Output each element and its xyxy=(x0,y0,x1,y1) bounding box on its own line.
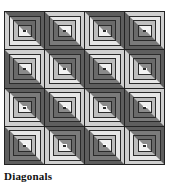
quilt-block xyxy=(125,89,164,126)
quilt-block xyxy=(45,89,84,126)
quilt-block xyxy=(125,12,164,49)
quilt-block xyxy=(85,127,124,164)
quilt-block xyxy=(45,127,84,164)
center-square xyxy=(23,107,26,109)
center-square xyxy=(23,68,26,70)
center-square xyxy=(23,30,26,32)
center-square xyxy=(63,145,66,147)
quilt-block xyxy=(5,127,44,164)
center-square xyxy=(23,145,26,147)
log-cabin-quilt xyxy=(4,11,165,165)
center-square xyxy=(63,30,66,32)
center-square xyxy=(143,107,146,109)
center-square xyxy=(143,30,146,32)
quilt-block xyxy=(45,12,84,49)
quilt-block xyxy=(125,127,164,164)
quilt-block xyxy=(85,12,124,49)
quilt-block xyxy=(5,89,44,126)
center-square xyxy=(143,68,146,70)
quilt-block xyxy=(125,50,164,87)
center-square xyxy=(63,68,66,70)
quilt-block xyxy=(85,50,124,87)
center-square xyxy=(103,107,106,109)
center-square xyxy=(103,30,106,32)
quilt-block xyxy=(45,50,84,87)
center-square xyxy=(143,145,146,147)
center-square xyxy=(103,145,106,147)
center-square xyxy=(63,107,66,109)
quilt-block xyxy=(5,50,44,87)
figure-caption: Diagonals xyxy=(4,170,52,182)
center-square xyxy=(103,68,106,70)
quilt-block xyxy=(5,12,44,49)
quilt-block xyxy=(85,89,124,126)
